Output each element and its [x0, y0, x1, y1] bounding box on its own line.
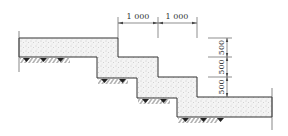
- dim-label-h2: 1 000: [166, 12, 189, 21]
- dim-label-v1: 500: [217, 40, 226, 55]
- dim-label-h1: 1 000: [127, 12, 150, 21]
- concrete-slab: [19, 38, 272, 117]
- dim-label-v3: 500: [217, 79, 226, 94]
- stepped-foundation-drawing: 1 000 1 000 500 500 500: [0, 0, 288, 136]
- dim-label-v2: 500: [217, 59, 226, 74]
